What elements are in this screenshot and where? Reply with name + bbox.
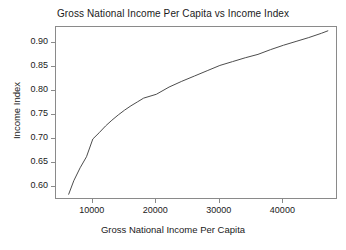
- x-tick-label: 40000: [257, 205, 307, 215]
- x-axis-title: Gross National Income Per Capita: [0, 224, 346, 235]
- x-tick-label: 20000: [130, 205, 180, 215]
- x-tick-label: 30000: [194, 205, 244, 215]
- y-axis-title: Income Index: [11, 51, 22, 171]
- x-axis-tick-labels: 10000200003000040000: [0, 0, 346, 250]
- x-tick-label: 10000: [67, 205, 117, 215]
- chart-figure: Gross National Income Per Capita vs Inco…: [0, 0, 346, 250]
